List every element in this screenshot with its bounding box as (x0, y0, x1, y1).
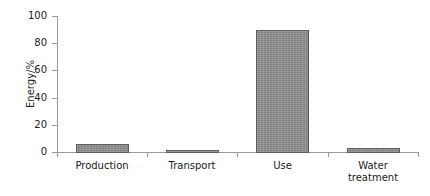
x-tick-2 (237, 152, 238, 157)
y-tick-label-100: 100 (21, 11, 47, 21)
y-tick-label-20: 20 (21, 120, 47, 130)
x-tick-4 (418, 152, 419, 157)
y-tick-60 (52, 70, 57, 71)
bar-use (256, 30, 309, 153)
y-tick-label-80: 80 (21, 38, 47, 48)
y-tick-20 (52, 125, 57, 126)
y-tick-label-0: 0 (21, 147, 47, 157)
x-label-water-treatment: Water treatment (328, 160, 418, 184)
x-tick-1 (147, 152, 148, 157)
bar-transport (166, 150, 219, 153)
bar-chart: Energy/% 0 20 40 60 80 100 Production Tr… (0, 0, 430, 196)
x-label-production: Production (57, 160, 147, 172)
bar-production (76, 144, 129, 153)
x-label-use: Use (237, 160, 328, 172)
bar-water-treatment (347, 148, 400, 153)
y-tick-label-40: 40 (21, 93, 47, 103)
y-tick-label-60: 60 (21, 65, 47, 75)
x-tick-3 (328, 152, 329, 157)
x-tick-0 (57, 152, 58, 157)
y-tick-80 (52, 43, 57, 44)
y-axis-line (57, 16, 58, 153)
y-tick-100 (52, 16, 57, 17)
x-label-transport: Transport (147, 160, 237, 172)
y-tick-40 (52, 98, 57, 99)
